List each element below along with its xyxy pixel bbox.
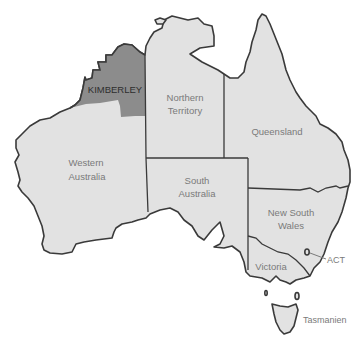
flinders-island — [295, 293, 299, 300]
tasmania[interactable] — [272, 304, 298, 334]
sa-label-line1: South — [185, 175, 210, 186]
qld-label: Queensland — [251, 126, 302, 137]
kimberley-label: KIMBERLEY — [88, 84, 143, 95]
act-label: ACT — [327, 255, 346, 265]
nt-label-line1: Northern — [167, 92, 204, 103]
wa-label-line2: Australia — [69, 171, 107, 182]
wa-label-line1: Western — [68, 157, 103, 168]
king-island — [265, 291, 267, 296]
nsw-label-line1: New South — [268, 207, 314, 218]
melville-island — [155, 18, 166, 24]
sa-label-line2: Australia — [179, 188, 217, 199]
vic-label: Victoria — [255, 261, 287, 272]
nt-label-line2: Territory — [168, 105, 203, 116]
australia-map: KIMBERLEY Western Australia Northern Ter… — [0, 0, 361, 342]
nsw-label-line2: Wales — [278, 220, 304, 231]
mainland-australia — [15, 14, 350, 284]
act-region[interactable] — [305, 249, 309, 255]
tasmania-label: Tasmanien — [303, 315, 347, 325]
